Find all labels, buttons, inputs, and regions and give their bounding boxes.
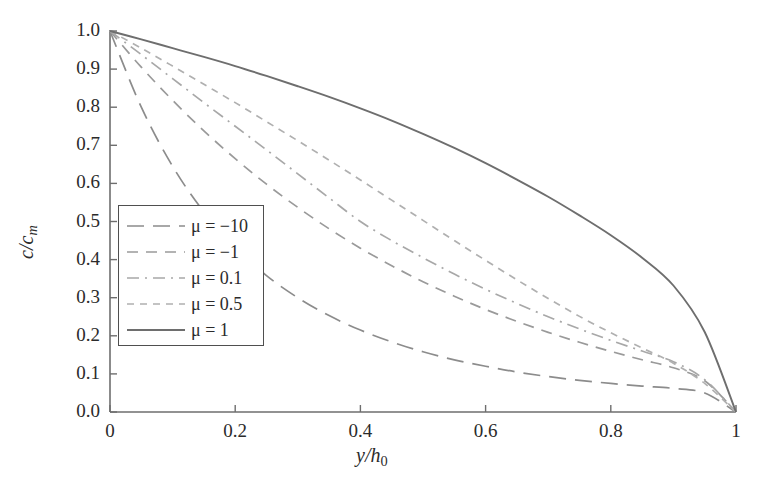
x-tick-label: 0.4: [330, 420, 390, 442]
legend-item: μ = 1: [126, 317, 262, 343]
x-axis-ticks: [110, 405, 736, 412]
y-axis-ticks: [110, 31, 117, 412]
legend-item: μ = −1: [126, 239, 262, 265]
y-axis-title-slash: /: [15, 244, 37, 250]
plot-canvas: [0, 0, 770, 489]
legend: μ = −10μ = −1μ = 0.1μ = 0.5μ = 1: [118, 205, 264, 346]
x-tick-label: 0.6: [456, 420, 516, 442]
legend-item: μ = 0.5: [126, 291, 262, 317]
y-axis-title-numerator: c: [15, 250, 37, 259]
x-tick-label: 1: [706, 420, 766, 442]
x-tick-label: 0.2: [205, 420, 265, 442]
legend-line-swatch: [126, 297, 186, 311]
legend-label: μ = 0.1: [191, 268, 242, 289]
y-tick-label: 0.7: [40, 133, 100, 155]
legend-line-swatch: [126, 219, 186, 233]
chart-figure: 0.00.10.20.30.40.50.60.70.80.91.0 00.20.…: [0, 0, 770, 489]
x-axis-title-subscript: 0: [380, 453, 387, 469]
y-tick-label: 0.0: [40, 400, 100, 422]
legend-label: μ = −1: [191, 242, 239, 263]
y-tick-label: 0.5: [40, 210, 100, 232]
legend-label: μ = 1: [191, 320, 229, 341]
x-axis-title: y/h0: [356, 444, 388, 470]
y-tick-label: 0.6: [40, 171, 100, 193]
y-tick-label: 0.1: [40, 362, 100, 384]
x-tick-label: 0.8: [581, 420, 641, 442]
y-axis-title: c/cm: [15, 192, 41, 292]
y-tick-label: 0.4: [40, 248, 100, 270]
y-axis-title-wrapper: c/cm: [8, 185, 48, 295]
y-tick-label: 0.9: [40, 57, 100, 79]
y-axis-title-denominator: c: [15, 236, 37, 245]
legend-item: μ = 0.1: [126, 265, 262, 291]
legend-line-swatch: [126, 245, 186, 259]
x-axis-title-numerator: y: [356, 444, 365, 466]
x-tick-label: 0: [80, 420, 140, 442]
legend-line-swatch: [126, 271, 186, 285]
legend-label: μ = −10: [191, 216, 248, 237]
y-tick-label: 0.3: [40, 286, 100, 308]
legend-line-swatch: [126, 323, 186, 337]
y-tick-label: 0.2: [40, 324, 100, 346]
x-axis-title-denominator: h: [370, 444, 380, 466]
legend-label: μ = 0.5: [191, 294, 242, 315]
y-tick-label: 0.8: [40, 95, 100, 117]
y-tick-label: 1.0: [40, 19, 100, 41]
legend-item: μ = −10: [126, 213, 262, 239]
y-axis-title-subscript: m: [24, 225, 40, 235]
